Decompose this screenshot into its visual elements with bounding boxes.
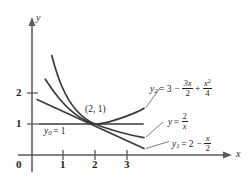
curve-label-y2-fraction-2: x2 4 — [203, 78, 212, 98]
y2-frac1-denominator: 2 — [182, 88, 192, 98]
curve-label-y2-minus: − — [173, 84, 181, 94]
curve-label-y1: y1= 2− x 2 — [172, 134, 212, 153]
curve-label-y-exact-eq: = — [172, 117, 180, 127]
curve-label-y2-eq-lead: = 3 — [158, 84, 173, 94]
x-tick-label-2: 2 — [92, 159, 98, 170]
curve-label-y2-fraction-1: 3x 2 — [182, 79, 192, 98]
curve-label-y0-eq: = 1 — [52, 126, 67, 136]
y-axis — [29, 17, 36, 172]
curve-label-y2: y2= 3− 3x 2 + x2 4 — [150, 78, 213, 98]
curve-label-y0: y0= 1 — [44, 127, 67, 137]
y-axis-label: y — [36, 13, 40, 23]
curve-label-y1-minus: − — [195, 139, 203, 149]
y2-frac2-numerator: x2 — [203, 78, 212, 88]
curve-label-y-exact-fraction: 2 x — [182, 112, 188, 131]
curve-y2 — [45, 79, 144, 124]
curve-label-y1-fraction: x 2 — [204, 134, 210, 153]
x-tick-label-1: 1 — [60, 159, 66, 170]
y-tick-label-2: 2 — [16, 87, 22, 98]
y1-frac-numerator: x — [204, 134, 210, 143]
leader-line-y1 — [146, 142, 169, 149]
curve-label-y1-eq-lead: = 2 — [180, 139, 195, 149]
y2-frac2-denominator: 4 — [203, 88, 212, 98]
y2-frac1-numerator: 3x — [182, 79, 192, 88]
plot-canvas — [0, 0, 252, 183]
y-tick-label-1: 1 — [16, 118, 22, 129]
x-tick-label-3: 3 — [124, 159, 130, 170]
curve-label-y-exact: y= 2 x — [168, 112, 189, 131]
point-label-2-1: (2, 1) — [85, 105, 106, 115]
origin-label: 0 — [16, 159, 22, 170]
y-exact-denominator: x — [182, 121, 188, 131]
curve-label-y2-plus: + — [194, 84, 202, 94]
y2-frac2-exponent: 2 — [208, 77, 211, 84]
y-exact-numerator: 2 — [182, 112, 188, 121]
y1-frac-denominator: 2 — [204, 143, 210, 153]
graph-figure: y x 0 1 2 3 1 2 (2, 1) y0= 1 y2= 3− 3x 2… — [0, 0, 252, 183]
leader-line-y-exact — [146, 122, 163, 137]
x-axis-label: x — [236, 149, 240, 159]
